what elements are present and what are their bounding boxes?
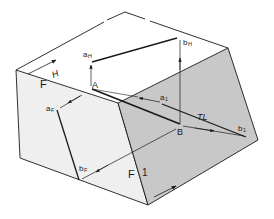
label-plane-f: F xyxy=(40,78,47,90)
svg-text:H: H xyxy=(188,41,192,47)
label-plane-1: 1 xyxy=(142,167,148,178)
projection-box-diagram: H F F 1 A B TL a H b H a F b F a 1 b 1 xyxy=(0,0,274,219)
svg-text:1: 1 xyxy=(243,127,246,133)
svg-text:H: H xyxy=(88,53,92,59)
label-true-length: TL xyxy=(197,112,208,122)
label-point-a-capital: A xyxy=(92,80,98,90)
svg-text:1: 1 xyxy=(165,96,168,102)
label-point-b-capital: B xyxy=(177,127,183,137)
label-plane-f-fold: F xyxy=(128,168,135,180)
